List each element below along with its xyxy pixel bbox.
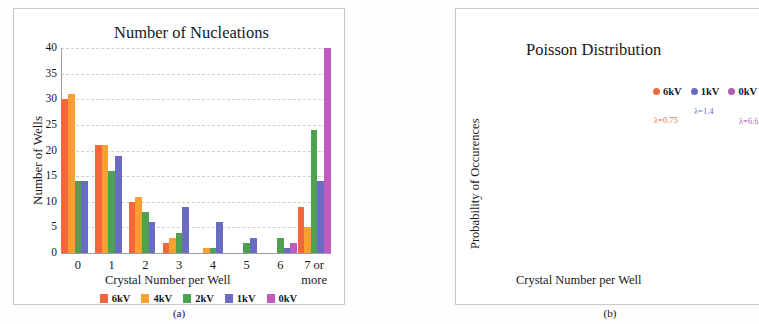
legend-item-6kv[interactable]: 6kV <box>100 293 131 304</box>
chart-a-y-tick: 25 <box>37 118 57 130</box>
bar <box>61 99 68 253</box>
bar <box>317 181 324 253</box>
chart-b-x-axis-label: Crystal Number per Well <box>516 273 641 288</box>
legend-label: 6kV <box>663 86 682 97</box>
chart-a-y-tick: 15 <box>37 169 57 181</box>
legend-item-6kv[interactable]: 6kV <box>653 86 682 97</box>
legend-dot-icon <box>728 88 735 95</box>
chart-a-y-tick: 10 <box>37 195 57 207</box>
chart-a-gridline <box>61 253 331 254</box>
bar <box>304 227 311 253</box>
panel-b-poisson-chart: Poisson Distribution Probability of Occu… <box>455 8 759 305</box>
figure-container: Number of Nucleations Number of Wells Cr… <box>0 0 759 324</box>
bar <box>95 145 102 253</box>
legend-label: 2kV <box>195 293 214 304</box>
bar <box>182 207 189 253</box>
chart-b-title: Poisson Distribution <box>526 40 661 60</box>
bar <box>129 202 136 253</box>
chart-a-x-tick: 7 ormore <box>288 258 340 288</box>
bar <box>277 238 284 253</box>
legend-item-1kv[interactable]: 1kV <box>225 293 256 304</box>
chart-a-plot-area: 051015202530354001234567 ormore <box>61 48 331 253</box>
chart-a-y-tick: 0 <box>37 246 57 258</box>
bar <box>169 238 176 253</box>
legend-swatch-icon <box>267 294 275 303</box>
chart-a-legend: 6kV4kV2kV1kV0kV <box>61 293 336 304</box>
bar <box>243 243 250 253</box>
legend-label: 1kV <box>237 293 256 304</box>
chart-a-y-tick: 20 <box>37 144 57 156</box>
bar <box>216 222 223 253</box>
bar <box>102 145 109 253</box>
bar <box>68 94 75 253</box>
legend-swatch-icon <box>183 294 191 303</box>
chart-a-x-axis-label: Crystal Number per Well <box>105 273 230 288</box>
legend-item-0kv[interactable]: 0kV <box>728 86 757 97</box>
chart-a-gridline <box>61 125 331 126</box>
lambda-annotation-0kv: λ=6.62 <box>739 116 759 126</box>
bar <box>176 233 183 254</box>
legend-item-2kv[interactable]: 2kV <box>183 293 214 304</box>
bar <box>311 130 318 253</box>
bar <box>284 248 291 253</box>
bar <box>81 181 88 253</box>
chart-a-y-tick: 35 <box>37 67 57 79</box>
legend-swatch-icon <box>141 294 149 303</box>
legend-dot-icon <box>653 88 660 95</box>
legend-dot-icon <box>691 88 698 95</box>
bar <box>149 222 156 253</box>
chart-a-y-tick: 40 <box>37 41 57 53</box>
chart-a-y-tick: 5 <box>37 220 57 232</box>
chart-a-gridline <box>61 74 331 75</box>
legend-label: 1kV <box>701 86 720 97</box>
bar <box>115 156 122 253</box>
panel-a-bar-chart: Number of Nucleations Number of Wells Cr… <box>13 8 345 305</box>
legend-label: 6kV <box>112 293 131 304</box>
legend-label: 4kV <box>153 293 172 304</box>
bar <box>298 207 305 253</box>
legend-swatch-icon <box>225 294 233 303</box>
legend-label: 0kV <box>279 293 298 304</box>
legend-item-0kv[interactable]: 0kV <box>267 293 298 304</box>
bar <box>250 238 257 253</box>
caption-a: (a) <box>13 307 345 319</box>
legend-item-1kv[interactable]: 1kV <box>691 86 720 97</box>
legend-swatch-icon <box>100 294 108 303</box>
lambda-annotation-1kv: λ=1.4 <box>694 106 714 116</box>
bar <box>142 212 149 253</box>
bar <box>210 248 217 253</box>
bar <box>163 243 170 253</box>
chart-a-gridline <box>61 48 331 49</box>
chart-a-y-tick: 30 <box>37 92 57 104</box>
bar <box>135 197 142 253</box>
chart-b-y-axis-label: Probability of Occurences <box>468 118 483 249</box>
bar <box>203 248 210 253</box>
caption-b: (b) <box>455 307 759 319</box>
lambda-annotation-6kv: λ=0.75 <box>654 115 678 125</box>
legend-item-4kv[interactable]: 4kV <box>141 293 172 304</box>
bar <box>75 181 82 253</box>
bar <box>108 171 115 253</box>
bar <box>324 48 331 253</box>
chart-a-gridline <box>61 99 331 100</box>
chart-b-legend: 6kV1kV0kV <box>653 86 757 97</box>
legend-label: 0kV <box>738 86 757 97</box>
chart-a-title: Number of Nucleations <box>114 23 269 43</box>
bar <box>290 243 297 253</box>
